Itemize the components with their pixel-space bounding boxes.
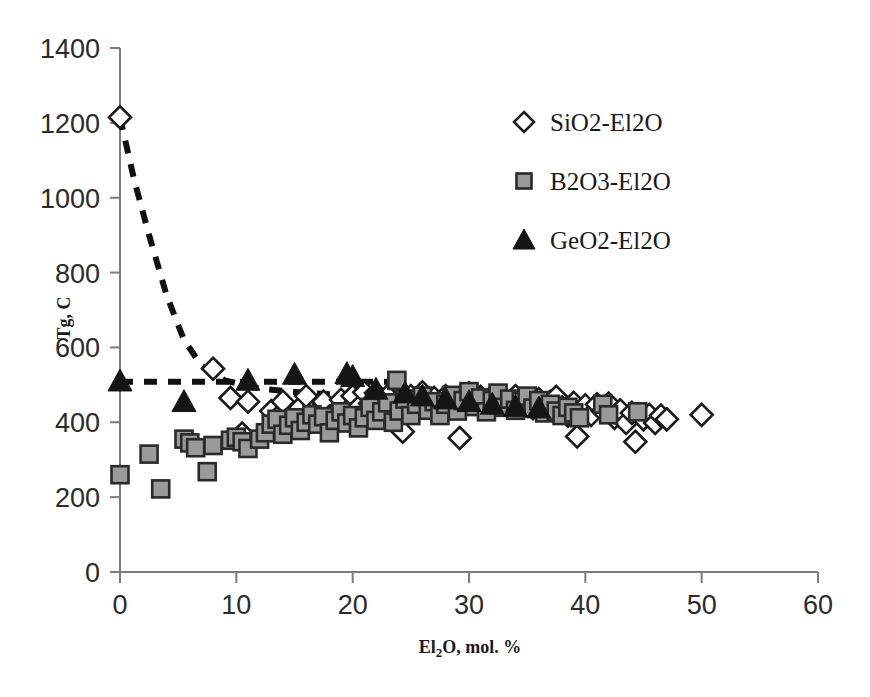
chart-figure: 02004006008001000120014000102030405060Tg… [0, 0, 870, 697]
legend-marker-diamond-open [514, 112, 534, 132]
data-point-marker [629, 403, 646, 420]
x-tick-label: 40 [570, 590, 600, 620]
data-point-marker [691, 404, 713, 426]
y-tick-label: 800 [55, 259, 100, 289]
data-point-marker [187, 439, 204, 456]
data-point-marker [141, 446, 158, 463]
data-point-marker [571, 409, 588, 426]
data-point-marker [600, 406, 617, 423]
x-tick-label: 20 [338, 590, 368, 620]
legend-item-B2O3-El2O[interactable]: B2O3-El2O [517, 168, 671, 195]
data-point-marker [205, 437, 222, 454]
x-tick-label: 0 [112, 590, 127, 620]
scatter-plot-svg: 02004006008001000120014000102030405060Tg… [0, 0, 870, 697]
y-tick-label: 1000 [40, 184, 100, 214]
legend-marker-triangle-filled [513, 229, 535, 249]
data-point-marker [237, 391, 259, 413]
y-tick-label: 0 [85, 558, 100, 588]
data-point-marker [152, 480, 169, 497]
data-point-marker [109, 106, 131, 128]
legend-item-GeO2-El2O[interactable]: GeO2-El2O [513, 227, 671, 254]
x-axis-title: El2O, mol. % [419, 637, 522, 660]
legend-item-SiO2-El2O[interactable]: SiO2-El2O [514, 109, 663, 136]
x-tick-label: 50 [687, 590, 717, 620]
x-tick-label: 60 [803, 590, 833, 620]
data-point-marker [566, 426, 588, 448]
legend-label: GeO2-El2O [550, 227, 671, 254]
x-tick-label: 10 [221, 590, 251, 620]
legend-marker-square-filled [517, 174, 532, 189]
data-point-marker [199, 463, 216, 480]
trendline-SiO2-trend [120, 117, 353, 395]
legend-label: SiO2-El2O [550, 109, 663, 136]
data-point-marker [449, 427, 471, 449]
x-tick-label: 30 [454, 590, 484, 620]
y-axis-title: Tg, C [54, 296, 74, 339]
y-tick-label: 1400 [40, 34, 100, 64]
data-point-marker [172, 390, 196, 412]
data-point-marker [112, 466, 129, 483]
data-point-marker [202, 358, 224, 380]
legend-label: B2O3-El2O [550, 168, 671, 195]
y-tick-label: 1200 [40, 109, 100, 139]
data-point-marker [283, 362, 307, 384]
y-tick-label: 200 [55, 483, 100, 513]
y-tick-label: 400 [55, 408, 100, 438]
data-point-marker [236, 368, 260, 390]
